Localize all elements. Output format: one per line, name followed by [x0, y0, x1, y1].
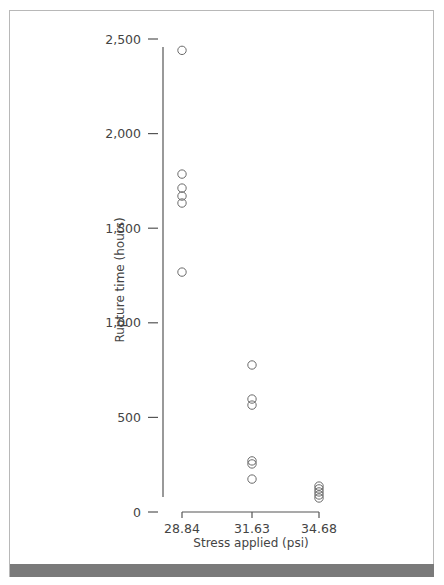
data-point	[248, 475, 256, 483]
data-point	[248, 401, 256, 409]
y-tick-label: 2,500	[105, 32, 141, 47]
y-tick-label: 500	[117, 410, 141, 425]
y-axis-title: Rupture time (hours)	[113, 217, 127, 342]
data-point	[178, 268, 186, 276]
y-tick-label: 0	[133, 505, 141, 520]
scatter-chart: 05001,0001,5002,0002,500 28.8431.6334.68…	[0, 0, 444, 585]
x-tick-label: 28.84	[164, 521, 200, 536]
data-point	[178, 184, 186, 192]
x-tick-label: 34.68	[301, 521, 337, 536]
x-axis-title: Stress applied (psi)	[193, 536, 308, 550]
y-tick-label: 2,000	[105, 126, 141, 141]
data-points	[178, 46, 323, 502]
data-point	[248, 361, 256, 369]
data-point	[178, 46, 186, 54]
x-tick-label: 31.63	[234, 521, 270, 536]
x-axis: 28.8431.6334.68	[164, 512, 337, 536]
data-point	[178, 170, 186, 178]
